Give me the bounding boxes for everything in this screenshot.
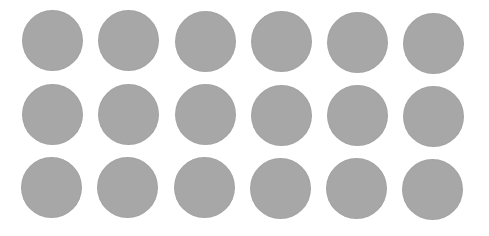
circle-r2-c2: [98, 84, 159, 145]
circle-r2-c4: [251, 85, 312, 146]
circle-r2-c6: [403, 86, 464, 147]
circle-r3-c3: [174, 157, 235, 218]
circle-r3-c6: [402, 159, 463, 220]
circle-r1-c3: [175, 11, 236, 72]
circle-r3-c5: [326, 158, 387, 219]
circle-r2-c3: [175, 84, 236, 145]
circle-r2-c1: [22, 84, 83, 145]
circle-r1-c5: [327, 12, 388, 73]
dot-grid: [0, 0, 489, 236]
circle-r2-c5: [327, 85, 388, 146]
circle-r3-c2: [97, 157, 158, 218]
circle-r1-c2: [98, 10, 159, 71]
circle-r3-c4: [250, 158, 311, 219]
circle-r1-c4: [251, 11, 312, 72]
circle-r1-c1: [22, 10, 83, 71]
circle-r1-c6: [403, 13, 464, 74]
circle-r3-c1: [21, 157, 82, 218]
